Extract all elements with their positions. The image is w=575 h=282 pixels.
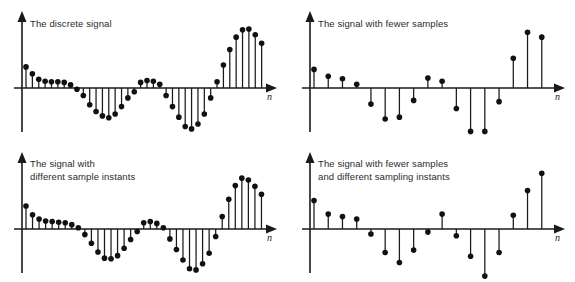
stem-marker xyxy=(119,104,125,110)
stem-marker xyxy=(108,256,114,262)
x-axis-label: n xyxy=(267,91,272,102)
panel-bottom-left: n The signal with different sample insta… xyxy=(0,141,287,282)
stem-marker xyxy=(74,86,80,92)
stems-bottom-right xyxy=(311,170,544,279)
stem-marker xyxy=(69,222,75,228)
stem-marker xyxy=(49,79,55,85)
stem-marker xyxy=(56,219,62,225)
stem-marker xyxy=(170,104,176,110)
stem-marker xyxy=(138,80,144,86)
stem-marker xyxy=(259,191,265,197)
stem-marker xyxy=(382,116,388,122)
stem-marker xyxy=(539,34,545,40)
stem-marker xyxy=(151,78,157,84)
stem-marker xyxy=(141,220,147,226)
stem-marker xyxy=(227,47,233,53)
stem-marker xyxy=(425,75,431,81)
stem-marker xyxy=(525,188,531,194)
stem-marker xyxy=(239,175,245,181)
stem-marker xyxy=(539,170,545,176)
stem-marker xyxy=(182,124,188,130)
x-axis-label: n xyxy=(267,232,272,243)
stem-marker xyxy=(200,261,206,267)
stem-marker xyxy=(144,78,150,84)
stem-marker xyxy=(193,267,199,273)
stem-marker xyxy=(161,225,167,231)
stems-top-left xyxy=(23,26,264,131)
stem-marker xyxy=(325,73,331,79)
stem-marker xyxy=(482,273,488,279)
panel-caption-bottom-right: The signal with fewer samples and differ… xyxy=(318,158,450,183)
stem-marker xyxy=(454,106,460,112)
stem-marker xyxy=(240,27,246,33)
stem-marker xyxy=(397,114,403,120)
stem-marker xyxy=(368,231,374,237)
x-axis-label: n xyxy=(555,232,560,243)
stem-marker xyxy=(128,237,134,243)
stem-marker xyxy=(325,211,331,217)
stem-marker xyxy=(208,95,214,101)
y-axis-arrowhead xyxy=(306,152,315,163)
stem-marker xyxy=(43,218,49,224)
stem-marker xyxy=(174,247,180,253)
stem-marker xyxy=(81,93,87,99)
stem-marker xyxy=(102,255,108,261)
stem-marker xyxy=(95,249,101,255)
stem-marker xyxy=(525,29,531,35)
stem-marker xyxy=(510,55,516,61)
stem-marker xyxy=(76,225,82,231)
stem-marker xyxy=(121,245,127,251)
stem-marker xyxy=(23,203,29,209)
stem-marker xyxy=(454,233,460,239)
stem-marker xyxy=(354,81,360,87)
stem-marker xyxy=(252,183,258,189)
stem-marker xyxy=(397,260,403,266)
stem-marker xyxy=(411,247,417,253)
stems-bottom-left xyxy=(23,175,264,272)
stem-marker xyxy=(340,214,346,220)
stem-marker xyxy=(62,220,68,226)
panel-caption-top-right: The signal with fewer samples xyxy=(318,18,448,31)
stem-marker xyxy=(154,221,160,227)
stem-marker xyxy=(206,250,212,256)
stem-marker xyxy=(167,236,173,242)
stem-marker xyxy=(55,79,61,85)
stem-marker xyxy=(510,213,516,219)
stem-marker xyxy=(439,78,445,84)
stem-marker xyxy=(214,79,220,85)
stem-marker xyxy=(82,232,88,238)
stem-marker xyxy=(134,229,140,235)
stem-marker xyxy=(311,67,317,73)
stem-marker xyxy=(87,102,93,108)
stem-marker xyxy=(36,77,42,83)
stem-marker xyxy=(93,109,99,115)
stem-marker xyxy=(496,99,502,105)
panel-top-left: n The discrete signal xyxy=(0,0,287,141)
stem-marker xyxy=(221,62,227,68)
stem-marker xyxy=(252,32,258,38)
panel-caption-bottom-left: The signal with different sample instant… xyxy=(30,158,135,183)
stem-marker xyxy=(30,212,36,218)
stem-marker xyxy=(246,26,252,32)
stem-marker xyxy=(311,198,317,204)
stem-marker xyxy=(340,76,346,82)
stem-marker xyxy=(411,98,417,104)
stem-marker xyxy=(42,78,48,84)
stem-marker xyxy=(368,101,374,107)
stem-marker xyxy=(36,216,42,222)
stem-marker xyxy=(259,41,265,47)
stem-marker xyxy=(30,71,36,77)
stem-marker xyxy=(89,240,95,246)
stem-marker xyxy=(131,89,137,95)
stem-marker xyxy=(382,250,388,256)
stem-marker xyxy=(189,126,195,132)
stem-marker xyxy=(68,82,74,88)
stem-marker xyxy=(233,34,239,40)
x-axis-label: n xyxy=(555,91,560,102)
stem-marker xyxy=(246,177,252,183)
stem-marker xyxy=(482,129,488,135)
stem-marker xyxy=(354,216,360,222)
stem-marker xyxy=(157,81,163,87)
stem-marker xyxy=(496,250,502,256)
y-axis-arrowhead xyxy=(18,152,27,163)
